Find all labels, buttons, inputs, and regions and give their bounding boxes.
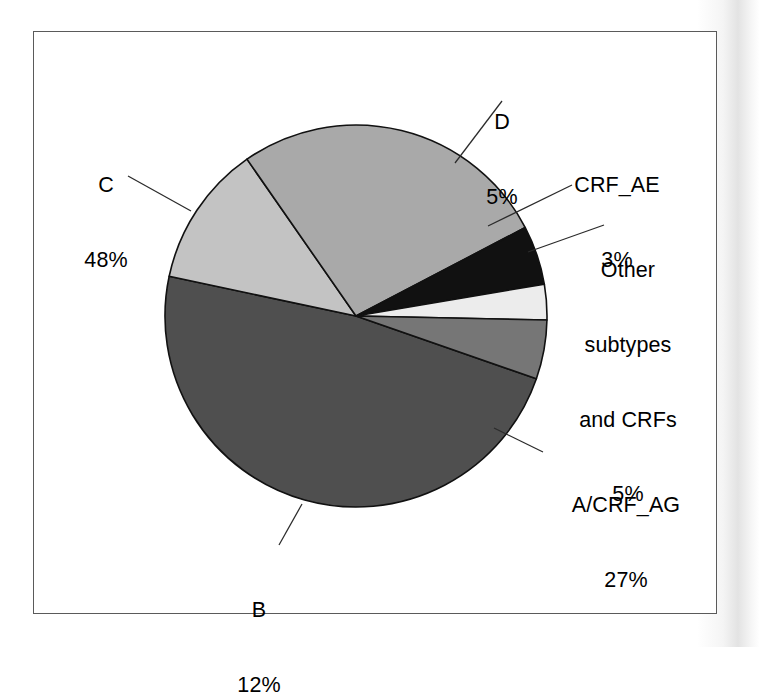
- slice-label-c-name: C: [62, 173, 150, 198]
- slice-label-a-crf-ag-name: A/CRF_AG: [550, 493, 702, 518]
- slice-label-d-percent: 5%: [472, 185, 532, 210]
- slice-label-c-percent: 48%: [62, 248, 150, 273]
- slice-label-d: D 5%: [472, 60, 532, 260]
- slice-label-crf-ae-name: CRF_AE: [551, 173, 683, 198]
- slice-label-other-line1: Other: [562, 258, 694, 283]
- leader-line-b: [279, 504, 302, 545]
- slice-label-a-crf-ag: A/CRF_AG 27%: [550, 443, 702, 643]
- slice-label-a-crf-ag-percent: 27%: [550, 568, 702, 593]
- slice-label-d-name: D: [472, 110, 532, 135]
- slice-label-c: C 48%: [62, 123, 150, 323]
- slice-label-other-line3: and CRFs: [562, 408, 694, 433]
- slice-label-b-percent: 12%: [229, 673, 289, 696]
- slice-label-b: B 12%: [229, 548, 289, 696]
- slice-label-other-line2: subtypes: [562, 333, 694, 358]
- slice-label-b-name: B: [229, 598, 289, 623]
